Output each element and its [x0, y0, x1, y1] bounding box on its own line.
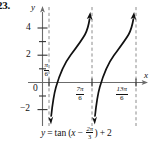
- equation-minus: −: [78, 128, 83, 138]
- y-axis-arrow-icon: [40, 6, 45, 12]
- y-axis-label: y: [31, 2, 35, 12]
- equation-shift-denominator: 3: [86, 133, 94, 140]
- y-tick-label-neg2: −2: [20, 103, 30, 113]
- equation-equals: =: [47, 128, 52, 138]
- 7pi-over-6-denominator: 6: [76, 95, 84, 103]
- equation-function: tan: [55, 128, 67, 138]
- x-tick-label-13pi-over-6: 13π 6: [116, 86, 128, 102]
- x-tick-label-7pi-over-6: 7π 6: [76, 86, 84, 102]
- y-tick-label-0: 0: [33, 83, 38, 93]
- equation-plus: +: [100, 128, 105, 138]
- 13pi-over-6-denominator: 6: [116, 95, 128, 103]
- branch-2-arrow-down-icon: [92, 117, 97, 125]
- x-axis-label: x: [144, 70, 148, 80]
- y-tick-label-2: 2: [26, 49, 31, 59]
- equation-vertical-shift: 2: [107, 128, 112, 138]
- curve-branch-1: [48, 12, 92, 125]
- y-tick-label-4: 4: [26, 22, 31, 32]
- equation-close-paren: ): [94, 128, 97, 138]
- pi-over-6-denominator: 6: [44, 71, 49, 79]
- x-tick-label-pi-over-6: π 6: [44, 62, 49, 78]
- curve-branch-2: [92, 12, 136, 125]
- figure-container: 23.: [0, 0, 154, 142]
- equation-shift-fraction: 2π 3: [86, 125, 94, 140]
- equation-variable: x: [71, 128, 75, 138]
- equation-shift-numerator: 2π: [86, 125, 94, 133]
- equation-caption: y = tan ( x − 2π 3 ) + 2: [41, 125, 112, 140]
- tangent-graph-svg: [0, 0, 154, 142]
- equation-lhs: y: [41, 128, 45, 138]
- asymptote-lines: [49, 7, 136, 126]
